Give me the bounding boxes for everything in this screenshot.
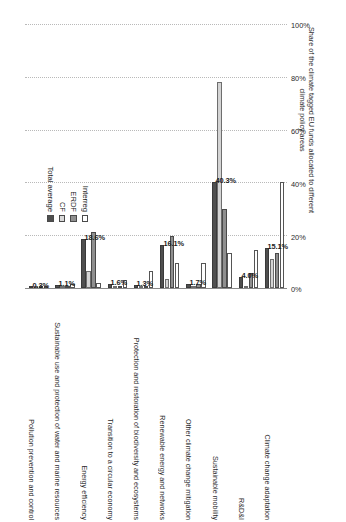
legend-item-erdf[interactable]: ERDF xyxy=(69,167,78,222)
legend-label: CF xyxy=(58,202,67,212)
bar-data-label: 1.7% xyxy=(189,277,205,286)
bar-group: 1.1% xyxy=(51,25,77,289)
legend-item-cf[interactable]: CF xyxy=(58,167,67,222)
category-label: Pollution prevention and control xyxy=(27,294,36,520)
bar-total xyxy=(81,239,85,288)
bar-data-label: 4.0% xyxy=(242,271,258,280)
bar-interreg xyxy=(254,250,258,288)
bar-data-label: 1.1% xyxy=(58,279,74,288)
chart-page: Pollution prevention and controlSustaina… xyxy=(0,0,346,522)
bar-data-label: 1.6% xyxy=(111,277,127,286)
bar-cf xyxy=(165,279,169,288)
bar-cf xyxy=(270,260,274,289)
bar-group: 18.6% xyxy=(77,25,103,289)
category-label: Protection and restoration of biodiversi… xyxy=(132,294,141,520)
value-tick-label: 20% xyxy=(291,233,306,242)
legend-label: Total average xyxy=(46,167,55,213)
legend-label: ERDF xyxy=(69,192,78,213)
bar-group: 1.7% xyxy=(182,25,208,289)
category-label: R&D&I xyxy=(237,294,246,520)
bar-cf xyxy=(217,82,221,288)
bar-data-label: 16.1% xyxy=(163,239,183,248)
bar-total xyxy=(265,248,269,288)
bar-group: 4.0% xyxy=(235,25,261,289)
bar-interreg xyxy=(175,263,179,288)
bar-groups: 0.3%1.1%18.6%1.6%1.3%16.1%1.7%40.3%4.0%1… xyxy=(25,25,287,289)
bar-erdf xyxy=(275,253,279,288)
bar-total xyxy=(160,246,164,289)
legend-swatch-icon xyxy=(47,216,54,223)
legend-item-interreg[interactable]: Interreg xyxy=(81,167,90,222)
bar-data-label: 40.3% xyxy=(215,175,235,184)
legend-swatch-icon xyxy=(59,216,66,223)
bar-group: 1.6% xyxy=(104,25,130,289)
legend-swatch-icon xyxy=(82,216,89,223)
value-axis-title: Share of the climate tagged EU funds all… xyxy=(297,25,316,215)
chart-area: Pollution prevention and controlSustaina… xyxy=(0,0,346,522)
bar-group: 0.3% xyxy=(25,25,51,289)
bar-group: 1.3% xyxy=(130,25,156,289)
chart-legend: Total averageCFERDFInterreg xyxy=(46,167,90,222)
value-tick-label: 0% xyxy=(291,286,302,295)
category-label: Climate change adaptation xyxy=(263,294,272,520)
bar-data-label: 1.3% xyxy=(137,278,153,287)
bar-data-label: 15.1% xyxy=(268,242,288,251)
bar-data-label: 18.6% xyxy=(84,232,104,241)
bar-cf xyxy=(244,286,248,288)
bar-group: 40.3% xyxy=(208,25,234,289)
category-label: Renewable energy and networks xyxy=(158,294,167,520)
category-label: Other climate change mitigation xyxy=(184,294,193,520)
bar-cf xyxy=(86,271,90,288)
category-label: Sustainable mobility xyxy=(211,294,220,520)
bar-total xyxy=(212,182,216,288)
category-label: Transition to a circular economy xyxy=(106,294,115,520)
legend-swatch-icon xyxy=(70,216,77,223)
bar-interreg xyxy=(227,253,231,288)
bar-interreg xyxy=(280,182,284,288)
bar-group: 16.1% xyxy=(156,25,182,289)
legend-item-total[interactable]: Total average xyxy=(46,167,55,222)
bar-erdf xyxy=(222,209,226,288)
bar-group: 15.1% xyxy=(261,25,287,289)
category-label: Sustainable use and protection of water … xyxy=(53,294,62,520)
category-label: Energy efficiency xyxy=(80,294,89,520)
plot-area: 0.3%1.1%18.6%1.6%1.3%16.1%1.7%40.3%4.0%1… xyxy=(25,25,287,289)
chart-stage: Pollution prevention and controlSustaina… xyxy=(0,0,346,522)
bar-interreg xyxy=(96,283,100,288)
category-axis-labels: Pollution prevention and controlSustaina… xyxy=(25,290,287,522)
legend-label: Interreg xyxy=(81,186,90,212)
bar-data-label: 0.3% xyxy=(32,281,48,290)
